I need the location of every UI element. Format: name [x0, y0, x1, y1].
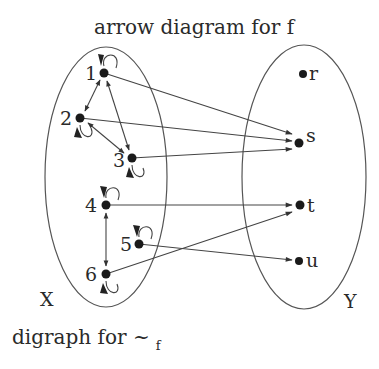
codomain-set-ellipse — [242, 45, 366, 309]
arrow-6-to-t — [106, 212, 292, 274]
node-6 — [102, 270, 111, 279]
node-2 — [76, 114, 85, 123]
codomain-label: Y — [343, 290, 357, 312]
node-1 — [100, 69, 109, 78]
domain-set-ellipse — [45, 47, 167, 307]
diagram-caption: digraph for ~f — [12, 325, 162, 353]
node-5 — [135, 240, 144, 249]
node-r — [299, 70, 307, 78]
node-1-label: 1 — [85, 62, 97, 84]
arrow-5-to-u — [139, 244, 292, 260]
node-6-label: 6 — [85, 263, 97, 285]
arrow-3-to-s — [132, 149, 292, 158]
edge-1-3 — [107, 81, 129, 150]
caption-main: digraph for ~ — [12, 325, 150, 349]
function-arrows — [80, 73, 292, 274]
diagram-title: arrow diagram for f — [94, 15, 296, 39]
arrow-1-to-s — [104, 73, 292, 134]
loop-5 — [139, 227, 152, 239]
domain-label: X — [40, 288, 54, 310]
node-3-label: 3 — [113, 149, 125, 171]
self-loops — [74, 54, 152, 294]
node-4 — [102, 201, 111, 210]
node-s — [295, 139, 304, 148]
loop-3 — [132, 165, 144, 177]
node-s-label: s — [306, 124, 316, 146]
loop-1 — [104, 55, 118, 68]
edge-1-2 — [85, 80, 100, 111]
codomain-nodes: r s t u — [295, 62, 320, 271]
arrow-diagram: arrow diagram for f X Y — [0, 0, 379, 369]
node-4-label: 4 — [85, 194, 97, 216]
node-t-label: t — [307, 194, 315, 216]
node-5-label: 5 — [120, 233, 132, 255]
node-3 — [128, 154, 137, 163]
node-2-label: 2 — [60, 107, 72, 129]
node-r-label: r — [309, 62, 319, 84]
loop-6 — [106, 281, 118, 293]
loop-4 — [106, 188, 119, 200]
loop-2 — [80, 125, 92, 137]
arrow-2-to-s — [80, 118, 292, 141]
node-t — [296, 201, 305, 210]
caption-subscript: f — [156, 338, 162, 353]
node-u — [295, 257, 303, 265]
node-u-label: u — [306, 249, 318, 271]
